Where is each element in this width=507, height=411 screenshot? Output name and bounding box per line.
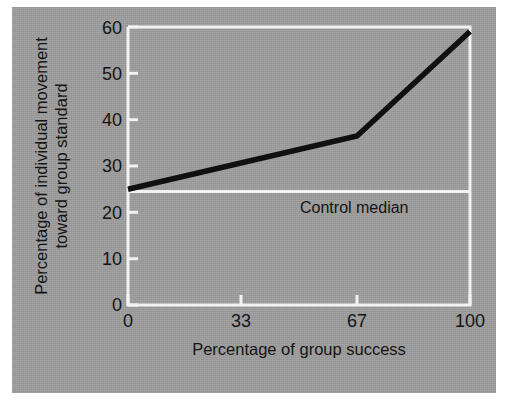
y-tick-label-50: 50: [102, 64, 122, 84]
y-tick-label-20: 20: [102, 203, 122, 223]
x-tick-label-67: 67: [347, 311, 367, 331]
x-tick-label-100: 100: [455, 311, 485, 331]
y-tick-label-10: 10: [102, 249, 122, 269]
y-tick-label-30: 30: [102, 156, 122, 176]
data-line-movement: [128, 32, 470, 190]
control-median-label: Control median: [300, 199, 409, 216]
plot-frame: [128, 27, 470, 305]
y-tick-label-60: 60: [102, 18, 122, 38]
y-axis-title-line1: Percentage of individual movement: [32, 37, 50, 295]
axis-box: [128, 27, 470, 305]
y-tick-label-40: 40: [102, 110, 122, 130]
chart-figure: 0 10 20 30 40 50 60 0 33 67 100 Percenta…: [0, 0, 507, 411]
x-tick-label-0: 0: [123, 311, 133, 331]
line-chart: 0 10 20 30 40 50 60 0 33 67 100 Percenta…: [0, 0, 507, 411]
x-tick-label-33: 33: [231, 311, 251, 331]
x-axis-title: Percentage of group success: [192, 340, 406, 358]
y-tick-label-0: 0: [112, 295, 122, 315]
y-axis-title-line2: toward group standard: [52, 83, 70, 248]
